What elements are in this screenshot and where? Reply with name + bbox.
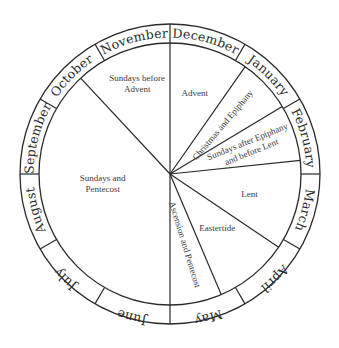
season-label-advent: Advent	[182, 88, 209, 98]
liturgical-year-wheel: DecemberJanuaryFebruaryMarchAprilMayJune…	[0, 0, 339, 348]
season-label-sundays-before-advent: Sundays beforeAdvent	[109, 73, 165, 94]
season-labels: AdventChristmas and EpiphanySundays afte…	[80, 73, 294, 289]
month-divider	[40, 240, 56, 250]
month-divider	[95, 287, 105, 303]
month-label-may: May	[192, 307, 224, 329]
month-label-september: September	[21, 100, 54, 174]
season-label-eastertide: Eastertide	[199, 223, 235, 233]
season-label-ascension-and-pentecost: Ascension and Pentecost	[167, 200, 203, 289]
month-label-november: November	[98, 25, 169, 57]
season-label-sundays-and-pentecost: Sundays andPentecost	[80, 173, 126, 194]
month-label-december: December	[172, 25, 242, 57]
season-label-lent: Lent	[241, 189, 258, 199]
month-label-february: February	[288, 106, 318, 169]
month-label-june: June	[115, 306, 150, 329]
month-label-october: October	[47, 51, 96, 100]
month-divider	[236, 287, 246, 303]
month-divider	[283, 99, 299, 109]
month-divider	[283, 240, 299, 250]
